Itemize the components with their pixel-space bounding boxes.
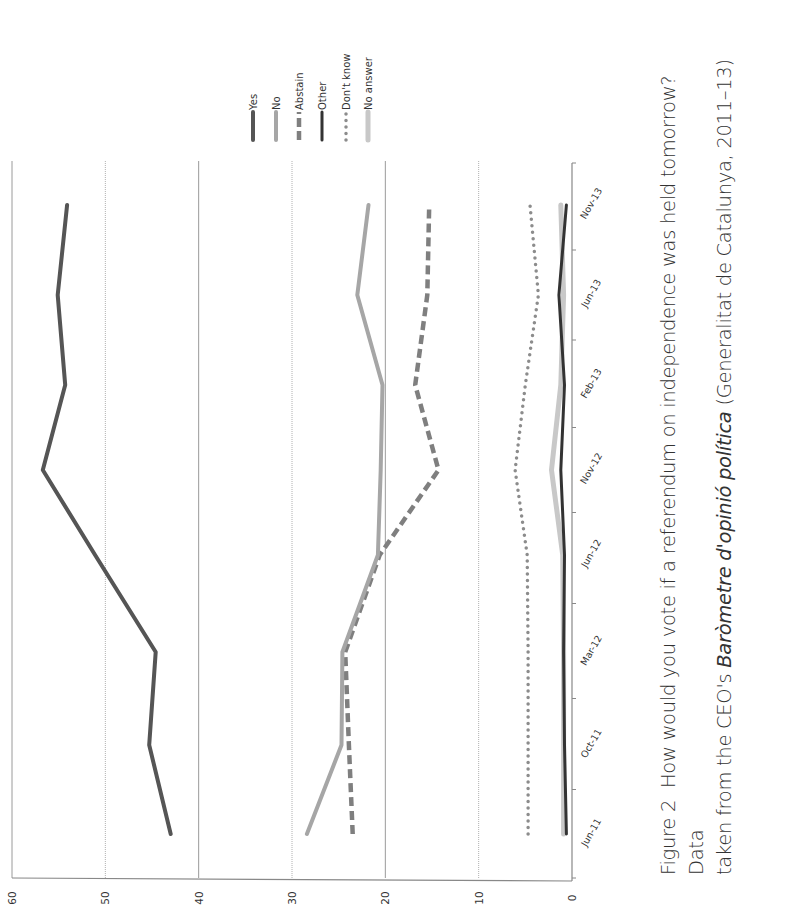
- x-tick-label: Jun-13: [578, 277, 603, 310]
- legend-item: No: [271, 96, 282, 140]
- caption-text-2a: taken from the CEO's: [713, 668, 736, 875]
- legend-item: No answer: [363, 56, 374, 140]
- series-lines: [43, 205, 567, 834]
- y-tick-label: 10: [473, 891, 485, 904]
- series-line-don-t-know: [515, 205, 538, 834]
- y-tick-label: 40: [193, 891, 205, 904]
- x-tick-label: Jun-11: [578, 816, 603, 849]
- x-tick-label: Feb-13: [578, 366, 604, 400]
- legend-item: Abstain: [294, 72, 305, 140]
- figure-label: Figure 2: [657, 800, 680, 875]
- x-tick-label: Jun-12: [578, 537, 603, 570]
- figure-caption: Figure 2 How would you vote if a referen…: [655, 55, 739, 875]
- x-tick-label: Nov-13: [578, 186, 604, 221]
- legend-item: Don't know: [341, 54, 352, 140]
- legend-label: Yes: [248, 94, 259, 111]
- series-line-no: [307, 205, 383, 834]
- caption-text-2b: (Generalitat de Catalunya, 2011–13): [713, 59, 736, 411]
- y-tick-label: 50: [99, 891, 111, 904]
- x-axis: [12, 163, 576, 881]
- caption-line-1: Figure 2 How would you vote if a referen…: [655, 55, 711, 875]
- x-axis-tick-labels: Jun-11Oct-11Mar-12Jun-12Nov-12Feb-13Jun-…: [578, 186, 604, 849]
- legend-label: Abstain: [294, 72, 305, 110]
- y-axis-tick-labels: 0102030405060: [6, 891, 578, 904]
- caption-text-1: How would you vote if a referendum on in…: [657, 76, 708, 875]
- y-tick-label: 60: [6, 891, 18, 904]
- x-tick-label: Nov-12: [578, 451, 604, 486]
- series-line-yes: [43, 205, 171, 834]
- x-tick-label: Oct-11: [578, 727, 604, 760]
- legend-label: Don't know: [341, 54, 352, 110]
- gridlines: [12, 161, 479, 878]
- y-tick-label: 30: [286, 891, 298, 904]
- x-tick-label: Mar-12: [578, 633, 604, 667]
- y-tick-label: 20: [379, 891, 391, 904]
- caption-line-2: taken from the CEO's Baròmetre d'opinió …: [711, 55, 739, 875]
- axis-baseline: [12, 878, 572, 881]
- legend-item: Yes: [248, 94, 259, 140]
- legend: YesNoAbstainOtherDon't knowNo answer: [248, 54, 374, 140]
- legend-label: No answer: [363, 56, 374, 110]
- y-tick-label: 0: [566, 895, 578, 902]
- legend-item: Other: [317, 81, 328, 140]
- legend-label: Other: [317, 81, 328, 110]
- caption-source-title: Baròmetre d'opinió política: [713, 411, 736, 667]
- legend-label: No: [271, 96, 282, 110]
